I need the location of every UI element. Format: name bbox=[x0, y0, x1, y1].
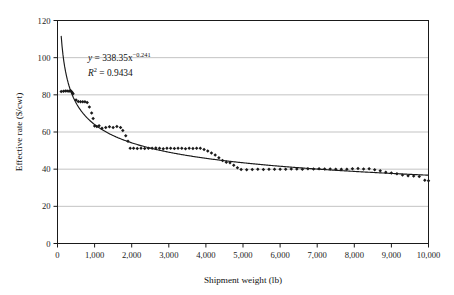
x-tick-label: 7,000 bbox=[308, 250, 327, 260]
y-tick-label: 80 bbox=[42, 90, 51, 100]
x-axis-title: Shipment weight (lb) bbox=[204, 275, 282, 285]
y-axis-title: Effective rate ($/cwt) bbox=[14, 93, 24, 171]
x-tick-label: 8,000 bbox=[345, 250, 364, 260]
x-tick-label: 9,000 bbox=[382, 250, 401, 260]
x-tick-label: 3,000 bbox=[159, 250, 178, 260]
x-tick-label: 10,000 bbox=[417, 250, 441, 260]
x-tick-label: 5,000 bbox=[233, 250, 252, 260]
y-tick-label: 40 bbox=[42, 164, 51, 174]
x-tick-label: 6,000 bbox=[270, 250, 289, 260]
y-tick-label: 20 bbox=[42, 201, 51, 211]
y-tick-label: 0 bbox=[46, 239, 50, 249]
x-tick-label: 2,000 bbox=[122, 250, 141, 260]
y-tick-label: 60 bbox=[42, 127, 51, 137]
x-tick-label: 1,000 bbox=[85, 250, 104, 260]
x-tick-label: 4,000 bbox=[196, 250, 215, 260]
scatter-plot: 020406080100120 01,0002,0003,0004,0005,0… bbox=[0, 0, 454, 295]
x-tick-label: 0 bbox=[55, 250, 59, 260]
y-tick-label: 120 bbox=[38, 16, 51, 26]
chart-figure: 020406080100120 01,0002,0003,0004,0005,0… bbox=[0, 0, 454, 295]
y-tick-label: 100 bbox=[38, 53, 51, 63]
